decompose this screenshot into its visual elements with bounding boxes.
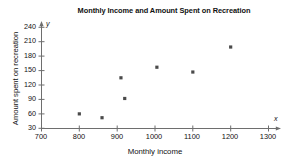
- data-point: [78, 112, 81, 115]
- y-axis-arrow-icon: [39, 21, 43, 26]
- data-point: [100, 116, 103, 119]
- data-point: [119, 76, 122, 79]
- data-point: [155, 66, 158, 69]
- data-point: [229, 45, 232, 48]
- x-axis-arrow-icon: [276, 126, 281, 130]
- plot-area: [0, 0, 288, 163]
- data-points: [78, 45, 233, 119]
- scatter-chart: Monthly Income and Amount Spent on Recre…: [0, 0, 288, 163]
- data-point: [123, 97, 126, 100]
- data-point: [191, 70, 194, 73]
